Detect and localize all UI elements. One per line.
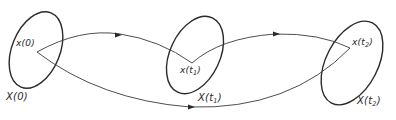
set-label-xt1-text: X(t	[198, 92, 213, 103]
point-label-xt1: x(t1)	[180, 65, 201, 77]
set-ellipse-xt2	[308, 11, 395, 115]
set-label-xt2-text: X(t	[357, 95, 372, 106]
arrowhead-icon	[188, 105, 195, 110]
set-ellipse-x0	[0, 4, 73, 96]
set-ellipse-xt1	[155, 7, 235, 102]
trajectory-diagram: x(0) X(0) x(t1) X(t1) x(t2) X(t2)	[0, 0, 396, 120]
point-label-xt1-text: x(t	[180, 65, 193, 75]
arrowhead-icon	[115, 33, 122, 38]
set-label-xt2: X(t2)	[357, 95, 381, 108]
set-label-xt1: X(t1)	[198, 92, 222, 105]
point-label-x0: x(0)	[16, 38, 35, 48]
trajectory-x0-to-xt1	[37, 33, 192, 63]
trajectory-x0-to-xt2	[37, 48, 350, 107]
set-label-xt2-end: )	[377, 95, 381, 106]
set-label-x0: X(0)	[6, 91, 28, 102]
point-label-xt2-end: )	[369, 37, 373, 47]
point-label-xt2-text: x(t	[352, 37, 365, 47]
set-label-xt1-end: )	[218, 92, 222, 103]
arrowhead-icon	[273, 32, 280, 37]
trajectory-xt1-to-xt2	[192, 34, 350, 63]
point-label-xt1-end: )	[197, 65, 201, 75]
point-label-xt2: x(t2)	[352, 37, 373, 49]
